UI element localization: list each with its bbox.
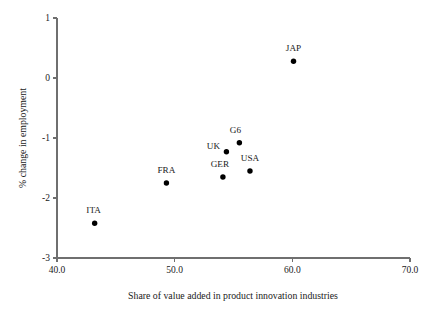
- x-tick-label: 60.0: [284, 265, 301, 275]
- x-axis-title: Share of value added in product innovati…: [128, 290, 338, 301]
- y-axis-title: % change in employment: [17, 88, 28, 188]
- data-point-label: UK: [207, 141, 221, 151]
- data-point-marker: [92, 221, 97, 226]
- data-point-marker: [164, 180, 169, 185]
- data-point-label: JAP: [286, 43, 301, 53]
- data-point-label: G6: [230, 125, 242, 135]
- data-point-label: GER: [211, 159, 230, 169]
- x-tick-label: 50.0: [166, 265, 183, 275]
- data-point-marker: [220, 174, 225, 179]
- data-point-label: ITA: [86, 205, 101, 215]
- data-point-label: FRA: [157, 165, 175, 175]
- y-tick-label: -3: [42, 253, 50, 263]
- plot-canvas: 10-1-2-3 40.050.060.070.0 ITAFRAGERUKG6U…: [0, 0, 436, 309]
- data-point-marker: [224, 149, 229, 154]
- data-point-label: USA: [241, 153, 260, 163]
- y-tick-label: 0: [45, 73, 50, 83]
- y-tick-label: 1: [45, 13, 50, 23]
- x-tick-label: 70.0: [402, 265, 419, 275]
- scatter-chart-figure: 10-1-2-3 40.050.060.070.0 ITAFRAGERUKG6U…: [0, 0, 436, 309]
- data-points-group: ITAFRAGERUKG6USAJAP: [86, 43, 301, 226]
- y-tick-label: -1: [42, 133, 50, 143]
- y-tick-group: 10-1-2-3: [42, 13, 57, 263]
- data-point-marker: [291, 59, 296, 64]
- x-tick-group: 40.050.060.070.0: [49, 258, 419, 275]
- data-point-marker: [237, 140, 242, 145]
- x-tick-label: 40.0: [49, 265, 66, 275]
- y-tick-label: -2: [42, 193, 50, 203]
- data-point-marker: [247, 168, 252, 173]
